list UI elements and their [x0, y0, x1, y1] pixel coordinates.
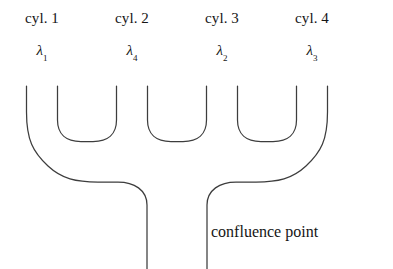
valley-1-2 [58, 86, 117, 142]
cylinder-label-3: cyl. 3 [182, 10, 262, 27]
microfluidic-channel-diagram: cyl. 1 cyl. 2 cyl. 3 cyl. 4 λ1 λ4 λ2 λ3 … [0, 0, 393, 269]
confluence-point-label: confluence point [211, 222, 318, 241]
wavelength-label-1: λ1 [2, 42, 82, 65]
channel-walls-svg [0, 0, 393, 269]
cylinder-label-2: cyl. 2 [92, 10, 172, 27]
wavelength-subscript-4: 3 [313, 53, 318, 63]
wavelength-subscript-2: 4 [133, 53, 138, 63]
wavelength-label-2: λ4 [92, 42, 172, 65]
wavelength-subscript-3: 2 [223, 53, 228, 63]
wavelength-label-4: λ3 [272, 42, 352, 65]
valley-2-3 [148, 86, 207, 142]
cylinder-label-1: cyl. 1 [2, 10, 82, 27]
valley-3-4 [238, 86, 297, 142]
outer-right-wall [207, 86, 328, 269]
wavelength-subscript-1: 1 [43, 53, 48, 63]
outer-left-wall [27, 86, 148, 269]
wavelength-label-3: λ2 [182, 42, 262, 65]
cylinder-label-4: cyl. 4 [272, 10, 352, 27]
